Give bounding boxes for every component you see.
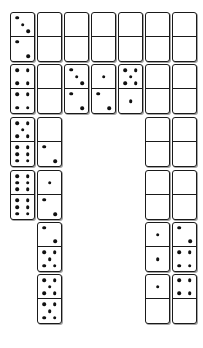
pip [177, 278, 181, 282]
domino-tile[interactable] [172, 222, 197, 272]
domino-half-top [146, 118, 169, 142]
domino-half-top [11, 118, 34, 142]
pip [42, 226, 46, 230]
pip [15, 16, 19, 20]
pip [129, 99, 133, 103]
pip [69, 92, 73, 96]
pip [26, 159, 30, 163]
pip [15, 134, 19, 138]
domino-half-bottom [92, 37, 115, 61]
domino-tile[interactable] [37, 12, 62, 62]
pip [42, 291, 46, 295]
domino-half-bottom [146, 299, 169, 323]
pip [26, 106, 30, 110]
domino-tile[interactable] [145, 170, 170, 220]
pip [53, 212, 57, 216]
domino-tile[interactable] [91, 64, 116, 114]
domino-tile[interactable] [145, 12, 170, 62]
domino-tile[interactable] [10, 12, 35, 62]
pip [75, 75, 79, 79]
pip [15, 121, 19, 125]
domino-tile[interactable] [145, 64, 170, 114]
pip [42, 264, 46, 268]
domino-half-bottom [38, 89, 61, 113]
domino-tile[interactable] [37, 170, 62, 220]
domino-half-top [38, 118, 61, 142]
domino-tile[interactable] [172, 117, 197, 167]
domino-half-bottom [92, 89, 115, 113]
domino-half-top [173, 275, 196, 299]
pip [26, 121, 30, 125]
domino-tile[interactable] [64, 12, 89, 62]
domino-tile[interactable] [91, 12, 116, 62]
pip [42, 316, 46, 320]
domino-half-top [146, 171, 169, 195]
pip [26, 198, 30, 202]
pip [177, 250, 181, 254]
domino-half-bottom [173, 89, 196, 113]
domino-half-bottom [38, 195, 61, 219]
domino-half-bottom [38, 247, 61, 271]
domino-tile[interactable] [172, 64, 197, 114]
domino-half-bottom [146, 195, 169, 219]
domino-half-top [38, 13, 61, 37]
pip [15, 81, 19, 85]
domino-tile[interactable] [172, 170, 197, 220]
pip [42, 198, 46, 202]
domino-half-bottom [38, 142, 61, 166]
pip [15, 145, 19, 149]
pip [188, 250, 192, 254]
domino-tile[interactable] [10, 170, 35, 220]
domino-tile[interactable] [37, 117, 62, 167]
domino-tile[interactable] [64, 64, 89, 114]
domino-tile[interactable] [172, 274, 197, 324]
domino-tile[interactable] [37, 222, 62, 272]
pip [53, 291, 57, 295]
domino-half-bottom [11, 89, 34, 113]
pip [15, 212, 19, 216]
domino-tile[interactable] [145, 274, 170, 324]
domino-half-top [146, 275, 169, 299]
pip [48, 309, 52, 313]
pip [26, 205, 30, 209]
domino-tile[interactable] [145, 117, 170, 167]
pip [53, 159, 57, 163]
domino-tile[interactable] [118, 12, 143, 62]
domino-tile[interactable] [118, 64, 143, 114]
pip [134, 68, 138, 72]
domino-tile[interactable] [37, 64, 62, 114]
pip [123, 68, 127, 72]
domino-half-top [173, 65, 196, 89]
domino-half-bottom [146, 247, 169, 271]
pip [48, 181, 52, 185]
pip [15, 159, 19, 163]
domino-tile[interactable] [172, 12, 197, 62]
domino-tile[interactable] [37, 274, 62, 324]
domino-half-top [11, 65, 34, 89]
domino-half-bottom [119, 37, 142, 61]
domino-half-top [38, 223, 61, 247]
domino-half-top [38, 65, 61, 89]
domino-half-top [119, 65, 142, 89]
pip [42, 145, 46, 149]
pip [15, 181, 19, 185]
pip [48, 257, 52, 261]
domino-half-top [173, 223, 196, 247]
pip [21, 23, 25, 27]
pip [26, 92, 30, 96]
pip [53, 302, 57, 306]
domino-tile[interactable] [10, 64, 35, 114]
domino-tile[interactable] [145, 222, 170, 272]
domino-tile[interactable] [10, 117, 35, 167]
domino-half-bottom [173, 299, 196, 323]
pip [15, 92, 19, 96]
domino-half-bottom [11, 142, 34, 166]
pip [26, 152, 30, 156]
pip [26, 187, 30, 191]
pip [53, 278, 57, 282]
pip [80, 82, 84, 86]
pip [53, 240, 57, 244]
pip [26, 54, 30, 58]
domino-half-bottom [65, 37, 88, 61]
pip [69, 68, 73, 72]
